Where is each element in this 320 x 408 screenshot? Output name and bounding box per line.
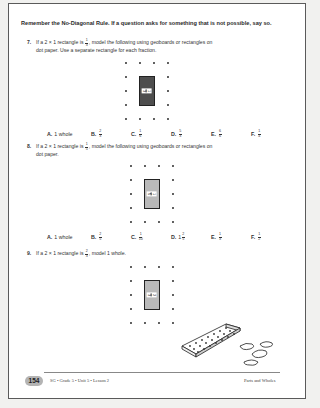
choice-a: A.1 whole [47,131,91,137]
shaded-rectangle: 15 [144,179,160,209]
footer-course-info: SG • Grade 5 • Unit 5 • Lesson 2 [50,378,109,383]
dot-grid-q8: 15 [129,165,179,225]
question-9: 9.If a 2 × 1 rectangle is 23, model 1 wh… [27,250,289,258]
question-7: 7.If a 2 × 1 rectangle is 13, model the … [27,39,289,54]
shaded-rectangle: 23 [144,280,160,310]
dot-grid-q9: 23 [129,266,179,326]
question-text-line2: dot paper. [27,151,289,158]
rectangle-fraction-label: 15 [147,191,157,196]
footer-divider [44,372,280,373]
choice-f: F.12 [251,233,281,241]
shaded-rectangle: 13 [139,76,155,106]
rectangle-fraction-label: 13 [142,88,152,93]
choice-a: A.1 whole [47,234,91,240]
question-number: 8. [27,143,36,150]
intro-instruction: Remember the No-Diagonal Rule. If a ques… [21,20,291,27]
question-8: 8.If a 2 × 1 rectangle is 15, model the … [27,143,289,158]
choice-e: E.66 [211,130,251,138]
question-text-line2: dot paper. Use a separate rectangle for … [27,47,289,54]
answer-choices-q7: A.1 whole B.23 C.16 D.53 E.66 F.14 [47,130,287,138]
page-number-badge: 154 [25,376,43,386]
dot-grid-q7: 13 [124,62,174,122]
geoboard-illustration-icon [178,304,290,372]
question-text: If a 2 × 1 rectangle is [36,250,83,256]
choice-e: E.13 [211,233,251,241]
question-number: 9. [27,250,36,257]
choice-f: F.14 [251,130,281,138]
choice-c: C.110 [131,233,171,241]
choice-d: D.125 [171,233,211,241]
choice-b: B.23 [91,130,131,138]
question-text: If a 2 × 1 rectangle is [36,39,83,45]
choice-d: D.53 [171,130,211,138]
rectangle-fraction-label: 23 [147,292,157,297]
question-text: If a 2 × 1 rectangle is [36,143,83,149]
answer-choices-q8: A.1 whole B.25 C.110 D.125 E.13 F.12 [47,233,287,241]
choice-b: B.25 [91,233,131,241]
choice-c: C.16 [131,130,171,138]
footer-section-title: Parts and Wholes [244,378,275,383]
question-number: 7. [27,39,36,46]
